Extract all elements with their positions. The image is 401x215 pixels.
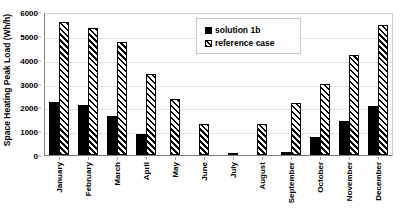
x-axis-tick-label: July [229,162,238,178]
x-axis-tick-mark [175,157,176,160]
x-axis-label-cell: May [160,157,189,215]
bar [281,152,291,155]
y-axis-tick-label: 1000 [20,128,38,137]
chart-container: Space Heating Peak Load (Wh/h) 010002000… [0,0,401,215]
x-axis-tick-mark [262,157,263,160]
x-axis-label-cell: August [248,157,277,215]
x-axis-label-cell: September [277,157,306,215]
bar [170,99,180,155]
x-axis-tick-label: November [345,162,354,201]
bar [49,102,59,155]
x-axis-tick-mark [117,157,118,160]
bar-group [334,14,363,155]
x-axis-tick-mark [320,157,321,160]
bar [107,116,117,155]
x-axis-tick-mark [59,157,60,160]
x-axis-tick-mark [146,157,147,160]
y-axis-tick-mark [38,108,41,109]
y-axis-tick-label: 2000 [20,104,38,113]
y-axis-tick-mark [38,13,41,14]
bar-group [161,14,190,155]
bar [339,121,349,155]
x-axis-label-cell: June [189,157,218,215]
bar [117,42,127,155]
bar [378,25,388,155]
bar [310,137,320,155]
x-axis-category-labels: JanuaryFebruaryMarchAprilMayJuneJulyAugu… [44,157,393,215]
y-axis-title: Space Heating Peak Load (Wh/h) [0,0,14,160]
x-axis-tick-label: September [287,162,296,203]
x-axis-tick-label: April [141,162,150,180]
legend-item-label: reference case [215,38,275,48]
x-axis-label-cell: March [102,157,131,215]
bar-group [45,14,74,155]
legend-item-reference-case: reference case [205,38,294,48]
chart-legend: solution 1b reference case [196,18,301,54]
x-axis-label-cell: January [44,157,73,215]
y-axis-tick-labels: 0100020003000400050006000 [14,13,41,156]
bar-group [363,14,392,155]
y-axis-tick-label: 3000 [20,80,38,89]
bar [136,134,146,155]
x-axis-label-cell: November [335,157,364,215]
x-axis-tick-label: March [112,162,121,186]
x-axis-tick-label: December [374,162,383,201]
bar [257,124,267,155]
x-axis-tick-mark [349,157,350,160]
bar [368,106,378,155]
y-axis-tick-mark [38,84,41,85]
x-axis-label-cell: July [218,157,247,215]
x-axis-tick-mark [204,157,205,160]
legend-item-solution-1b: solution 1b [205,25,294,35]
solid-square-icon [205,27,212,34]
y-axis-tick-mark [38,132,41,133]
x-axis-tick-label: January [54,162,63,193]
bar-group [305,14,334,155]
bar [59,22,69,155]
bar-group [132,14,161,155]
y-axis-tick-label: 5000 [20,32,38,41]
x-axis-tick-label: February [83,162,92,196]
y-axis-tick-label: 4000 [20,56,38,65]
x-axis-label-cell: April [131,157,160,215]
y-axis-tick-mark [38,60,41,61]
hatched-square-icon [205,40,212,47]
bar [349,55,359,155]
x-axis-tick-mark [291,157,292,160]
legend-item-label: solution 1b [215,25,260,35]
bar-group [103,14,132,155]
x-axis-tick-mark [378,157,379,160]
y-axis-tick-label: 6000 [20,9,38,18]
bar [199,124,209,155]
x-axis-label-cell: October [306,157,335,215]
x-axis-label-cell: December [364,157,393,215]
x-axis-tick-label: October [316,162,325,193]
bar [78,105,88,155]
bar [146,74,156,156]
y-axis-tick-mark [38,36,41,37]
bar [88,28,98,156]
bar [320,84,330,155]
bar [228,153,238,155]
x-axis-tick-label: June [199,162,208,181]
x-axis-tick-mark [233,157,234,160]
bar [291,103,301,155]
x-axis-tick-label: August [258,162,267,190]
x-axis-label-cell: February [73,157,102,215]
x-axis-tick-mark [88,157,89,160]
bar-group [74,14,103,155]
y-axis-title-text: Space Heating Peak Load (Wh/h) [2,14,12,146]
x-axis-tick-label: May [170,162,179,178]
y-axis-tick-mark [38,156,41,157]
